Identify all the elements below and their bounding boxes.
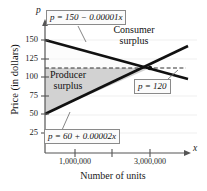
- equilibrium-point-marker: [148, 66, 152, 70]
- supply-equation-box: p = 60 + 0.00002x: [44, 129, 120, 144]
- x-tick-label-3000000: 3,000,000: [124, 158, 176, 166]
- consumer-surplus-label-line1: Consumer: [113, 24, 154, 35]
- producer-surplus-label-line2: surplus: [54, 80, 83, 91]
- producer-surplus-label: Producer surplus: [39, 70, 97, 92]
- x-axis-title: Number of units: [58, 171, 168, 182]
- equilibrium-price-box: p = 120: [134, 79, 171, 94]
- consumer-surplus-label: Consumer surplus: [103, 25, 165, 47]
- x-tick-label-1000000: 1,000,000: [49, 158, 101, 166]
- x-axis-arrow: [184, 150, 191, 156]
- surplus-chart-figure: p x 150 125 100 75 50 25 1,000,000 3,000…: [0, 0, 207, 191]
- y-axis-variable-label: p: [36, 6, 41, 16]
- producer-surplus-label-line1: Producer: [50, 69, 86, 80]
- x-axis-variable-label: x: [193, 144, 197, 154]
- consumer-surplus-label-line2: surplus: [120, 35, 149, 46]
- demand-equation-box: p = 150 − 0.00001x: [46, 10, 126, 25]
- y-axis-title: Price (in dollars): [9, 25, 20, 135]
